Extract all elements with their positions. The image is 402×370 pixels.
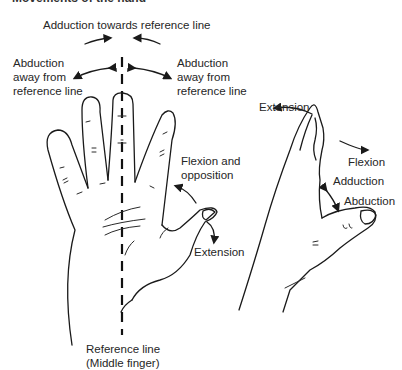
rh-abduction-arrow-icon — [326, 190, 338, 210]
label-abduction-left-3: reference line — [13, 84, 83, 98]
label-reference-line-1: Reference line — [86, 342, 160, 356]
label-abduction-left-2: away from — [13, 70, 66, 84]
label-flexion-opposition-1: Flexion and — [181, 154, 240, 168]
rh-flexion-arrow-icon — [340, 141, 367, 150]
label-reference-line-2: (Middle finger) — [86, 356, 160, 370]
label-flexion-opposition-2: opposition — [181, 168, 233, 182]
abduction-arrow-right-icon — [134, 68, 170, 78]
left-hand-illustration — [47, 93, 217, 345]
label-adduction-right: Adduction — [333, 174, 384, 188]
label-abduction-left-1: Abduction — [13, 56, 64, 70]
label-abduction-right: Abduction — [344, 194, 395, 208]
label-extension-left: Extension — [194, 245, 245, 259]
flexion-arrow-icon — [176, 186, 196, 203]
label-abduction-right-1: Abduction — [177, 56, 228, 70]
extension-arrow-icon — [207, 222, 214, 242]
adduction-arrow-right-icon — [135, 38, 160, 44]
label-extension-right: Extension — [259, 100, 310, 114]
abduction-arrow-left-icon — [75, 68, 110, 78]
right-hand-illustration — [239, 105, 376, 312]
adduction-arrow-left-icon — [85, 38, 110, 44]
label-abduction-right-2: away from — [177, 70, 230, 84]
label-abduction-right-3: reference line — [177, 84, 247, 98]
label-adduction-towards: Adduction towards reference line — [43, 18, 211, 32]
label-flexion-right: Flexion — [348, 155, 385, 169]
